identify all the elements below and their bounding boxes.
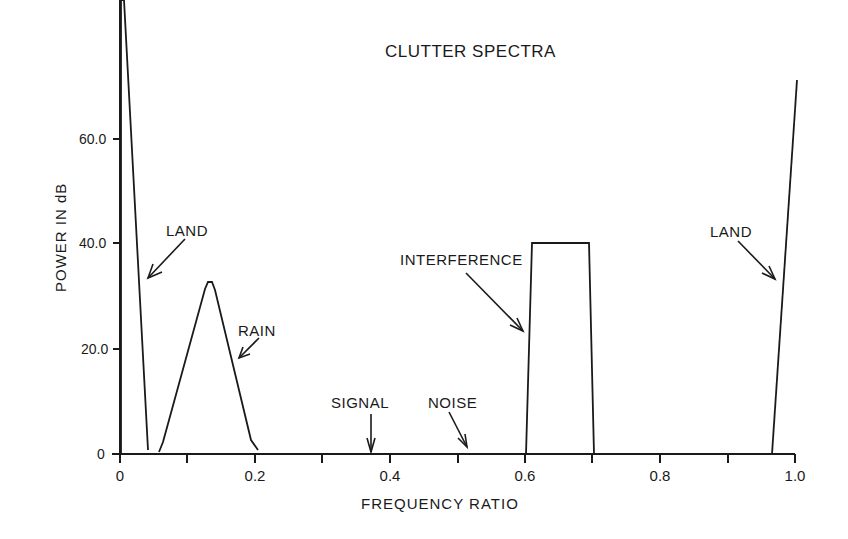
x-tick-0: 0 [116,467,124,484]
y-axis [112,0,120,455]
rain-curve [159,282,258,452]
noise-arrow [449,412,467,447]
x-tick-1.0: 1.0 [785,467,806,484]
land-low-curve [121,0,148,454]
noise-label: NOISE [428,394,477,411]
y-tick-60: 60.0 [79,131,106,147]
y-tick-0: 0 [97,446,105,462]
chart-title: CLUTTER SPECTRA [385,42,556,61]
interference-label: INTERFERENCE [400,251,523,268]
x-axis [120,454,795,463]
x-tick-0.6: 0.6 [515,467,536,484]
y-axis-label: POWER IN dB [52,183,69,292]
interference-curve [526,243,594,454]
land-right-arrow [738,241,775,279]
land-left-label: LAND [166,222,208,239]
clutter-spectra-chart: CLUTTER SPECTRA 60.0 40.0 20.0 0 POWER I… [0,0,848,539]
interference-arrow [466,273,523,331]
y-tick-40: 40.0 [79,235,106,251]
y-tick-20: 20.0 [81,341,108,357]
annotation-labels: LAND RAIN SIGNAL NOISE INTERFERENCE LAND [166,222,752,411]
land-left-arrow [148,239,185,278]
spectra-curves [121,0,797,454]
x-tick-0.2: 0.2 [245,467,266,484]
signal-label: SIGNAL [331,394,389,411]
x-axis-label: FREQUENCY RATIO [361,495,519,512]
noise-arrowhead-icon [458,434,467,447]
land-right-label: LAND [710,223,752,240]
x-tick-0.4: 0.4 [380,467,401,484]
annotation-arrows [148,239,775,452]
land-high-curve [772,80,797,454]
y-tick-labels: 60.0 40.0 20.0 0 [79,131,108,462]
rain-label: RAIN [238,322,276,339]
x-tick-labels: 0 0.2 0.4 0.6 0.8 1.0 [116,467,806,484]
x-tick-0.8: 0.8 [650,467,671,484]
